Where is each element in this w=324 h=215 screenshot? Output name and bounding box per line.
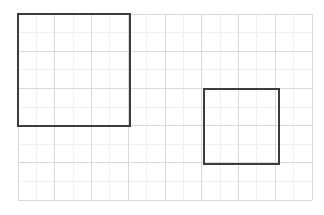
- figure-canvas: [0, 0, 324, 215]
- figure-svg: [0, 0, 324, 215]
